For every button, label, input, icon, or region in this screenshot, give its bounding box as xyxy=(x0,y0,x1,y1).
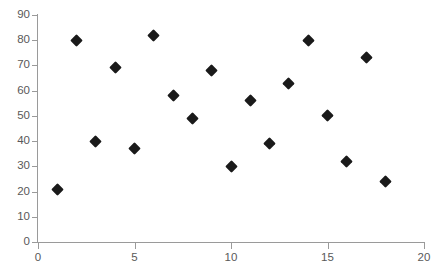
x-axis-tick xyxy=(135,243,136,249)
scatter-chart: 0102030405060708090 05101520 xyxy=(0,0,442,275)
x-axis-tick xyxy=(424,243,425,249)
x-axis-tick xyxy=(231,243,232,249)
y-axis-tick-label: 20 xyxy=(4,186,30,198)
y-axis-tick-label: 30 xyxy=(4,160,30,172)
y-axis-tick-label: 0 xyxy=(4,236,30,248)
y-axis-tick-label: 40 xyxy=(4,135,30,147)
y-axis-tick-label: 80 xyxy=(4,34,30,46)
x-axis-tick-label: 15 xyxy=(308,252,348,264)
x-axis-tick-label: 10 xyxy=(211,252,251,264)
y-axis-tick-label: 10 xyxy=(4,211,30,223)
x-axis-tick-label: 20 xyxy=(404,252,442,264)
x-axis-tick-label: 0 xyxy=(18,252,58,264)
y-axis-tick-label: 60 xyxy=(4,85,30,97)
x-axis-tick xyxy=(38,243,39,249)
y-axis-tick-label: 50 xyxy=(4,110,30,122)
x-axis-tick-label: 5 xyxy=(115,252,155,264)
y-axis-tick-label: 90 xyxy=(4,9,30,21)
plot-area xyxy=(38,15,424,242)
x-axis-tick xyxy=(328,243,329,249)
y-axis-tick-label: 70 xyxy=(4,59,30,71)
